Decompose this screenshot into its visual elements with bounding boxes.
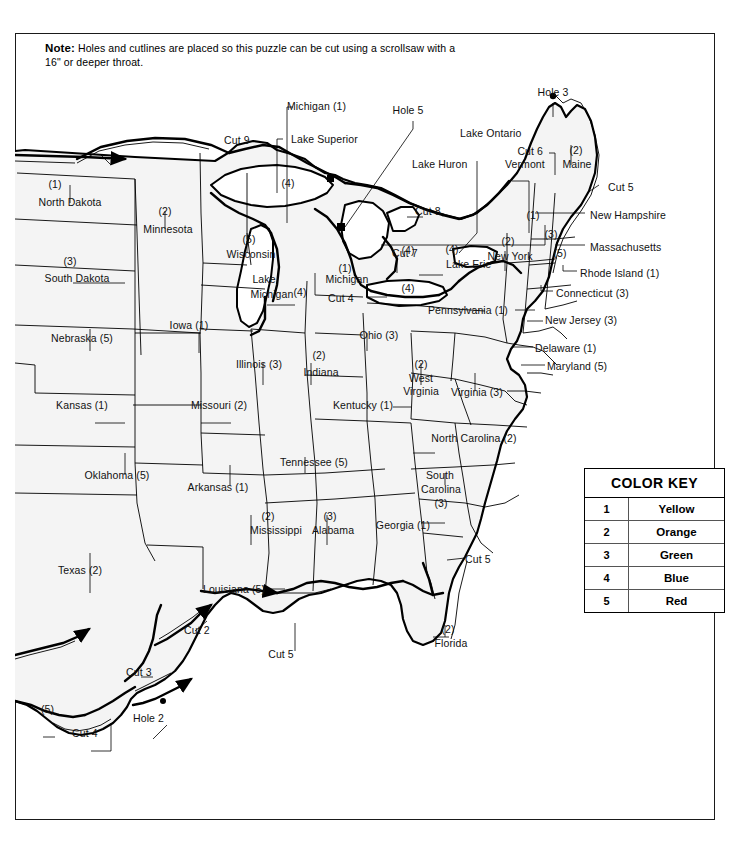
label-north-dakota-number: (1) — [48, 178, 61, 190]
label-cut-3: Cut 3 — [126, 666, 152, 678]
label-ny-lake-number: (4) — [445, 243, 458, 255]
label-georgia: Georgia (1) — [376, 519, 430, 531]
color-key-color: Red — [629, 590, 724, 612]
color-key-number: 5 — [585, 590, 629, 612]
label-cut-9: Cut 9 — [224, 134, 250, 146]
label-louisiana: Louisiana (5) — [203, 583, 265, 595]
label-south-dakota: South Dakota — [45, 272, 110, 284]
label-north-dakota: North Dakota — [38, 196, 101, 208]
label-missouri: Missouri (2) — [191, 399, 247, 411]
label-pa-erie-number: (4) — [401, 282, 414, 294]
color-key-color: Blue — [629, 567, 724, 589]
label-hole-5: Hole 5 — [393, 104, 424, 116]
label-indiana-number: (2) — [312, 349, 325, 361]
color-key-row: 1 Yellow — [585, 498, 724, 521]
color-key-number: 4 — [585, 567, 629, 589]
label-cut-4-southwest: Cut 4 — [72, 727, 98, 739]
label-lake-michigan-line1: Lake — [252, 273, 275, 285]
label-rhode-island: Rhode Island (1) — [580, 267, 659, 279]
label-cut-6: Cut 6 — [517, 145, 543, 157]
note-body: Holes and cutlines are placed so this pu… — [45, 42, 455, 68]
label-new-jersey: New Jersey (3) — [545, 314, 617, 326]
color-key-number: 1 — [585, 498, 629, 520]
color-key-panel: COLOR KEY 1 Yellow 2 Orange 3 Green 4 Bl… — [584, 468, 725, 613]
label-indiana: Indiana — [303, 366, 338, 378]
label-maine: Maine — [562, 158, 591, 170]
label-west-virginia-line2: Virginia — [403, 385, 439, 397]
label-lake-michigan-line2: Michigan — [251, 288, 294, 300]
label-new-hampshire: New Hampshire — [590, 209, 666, 221]
label-arkansas: Arkansas (1) — [188, 481, 249, 493]
label-michigan-up-number: (4) — [281, 177, 294, 189]
label-connecticut: Connecticut (3) — [556, 287, 629, 299]
label-wisconsin: Wisconsin — [227, 248, 276, 260]
label-virginia: Virginia (3) — [451, 386, 503, 398]
label-cut-8: Cut 8 — [415, 205, 441, 217]
label-maryland: Maryland (5) — [547, 360, 607, 372]
label-kansas: Kansas (1) — [56, 399, 108, 411]
label-new-york-number: (2) — [501, 235, 514, 247]
color-key-color: Green — [629, 544, 724, 566]
label-delaware: Delaware (1) — [535, 342, 596, 354]
note-text: Note: Holes and cutlines are placed so t… — [45, 41, 465, 69]
label-alabama-number: (3) — [323, 510, 336, 522]
label-cut-7: Cut 7 — [392, 247, 418, 259]
label-vermont: Vermont — [505, 158, 545, 170]
label-alabama: Alabama — [312, 524, 354, 536]
label-new-york: New York — [487, 250, 532, 262]
label-cut-2: Cut 2 — [184, 624, 210, 636]
label-south-carolina-number: (3) — [434, 497, 447, 509]
label-michigan-top: Michigan (1) — [287, 100, 346, 112]
label-corner-number: (5) — [41, 703, 54, 715]
label-iowa: Iowa (1) — [170, 319, 209, 331]
color-key-color: Orange — [629, 521, 724, 543]
label-cut-4-michigan: Cut 4 — [328, 292, 354, 304]
color-key-color: Yellow — [629, 498, 724, 520]
label-michigan-lp-number: (4) — [293, 286, 306, 298]
puzzle-pattern-sheet: Note: Holes and cutlines are placed so t… — [0, 0, 747, 861]
label-mississippi-number: (2) — [261, 510, 274, 522]
label-north-carolina: North Carolina (2) — [431, 432, 516, 444]
label-cut-5-northeast: Cut 5 — [608, 181, 634, 193]
color-key-number: 3 — [585, 544, 629, 566]
color-key-number: 2 — [585, 521, 629, 543]
label-michigan: Michigan — [326, 273, 369, 285]
color-key-title: COLOR KEY — [585, 469, 724, 498]
label-pennsylvania: Pennsylvania (1) — [428, 304, 508, 316]
label-ohio: Ohio (3) — [360, 329, 399, 341]
label-nebraska: Nebraska (5) — [51, 332, 113, 344]
color-key-row: 2 Orange — [585, 521, 724, 544]
label-lake-huron: Lake Huron — [412, 158, 467, 170]
label-minnesota-number: (2) — [158, 205, 171, 217]
label-cut-5-florida: Cut 5 — [465, 553, 491, 565]
label-tennessee: Tennessee (5) — [280, 456, 348, 468]
label-florida-number: (2) — [441, 623, 454, 635]
note-bold-label: Note: — [45, 42, 75, 54]
label-maine-number: (2) — [569, 144, 582, 156]
label-south-carolina-line2: Carolina — [421, 483, 461, 495]
label-south-carolina-line1: South — [426, 469, 454, 481]
color-key-row: 4 Blue — [585, 567, 724, 590]
label-minnesota: Minnesota — [143, 223, 192, 235]
label-illinois: Illinois (3) — [236, 358, 282, 370]
label-wisconsin-number: (5) — [242, 233, 255, 245]
label-west-virginia-line1: West — [409, 372, 433, 384]
label-west-virginia-number: (2) — [414, 358, 427, 370]
label-south-dakota-number: (3) — [63, 255, 76, 267]
label-massachusetts: Massachusetts — [590, 241, 661, 253]
color-key-row: 3 Green — [585, 544, 724, 567]
label-kentucky: Kentucky (1) — [333, 399, 393, 411]
label-hole-3: Hole 3 — [538, 86, 569, 98]
label-vermont-number: (3) — [544, 228, 557, 240]
label-lake-ontario: Lake Ontario — [460, 127, 521, 139]
label-mississippi: Mississippi — [250, 524, 302, 536]
label-cut-5-louisiana: Cut 5 — [268, 648, 294, 660]
label-texas: Texas (2) — [58, 564, 102, 576]
label-oklahoma: Oklahoma (5) — [85, 469, 150, 481]
label-hole-2: Hole 2 — [133, 712, 164, 724]
label-florida: Florida — [435, 637, 468, 649]
label-ny-nh-number: (1) — [526, 209, 539, 221]
label-lake-erie: Lake Erie — [446, 258, 491, 270]
label-lake-superior: Lake Superior — [291, 133, 358, 145]
usa-map-artwork — [15, 33, 715, 820]
